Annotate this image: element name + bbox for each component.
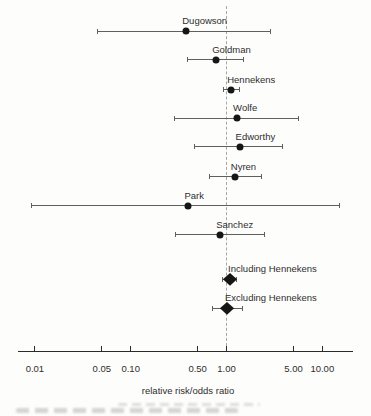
cropped-caption-remnant	[118, 403, 260, 406]
x-axis-tick-label: 0.10	[109, 363, 153, 374]
x-axis-tick	[293, 346, 294, 351]
cropped-caption-remnant	[16, 408, 238, 413]
x-axis-tick	[130, 346, 131, 351]
x-axis-tick	[226, 346, 227, 351]
x-axis-title: relative risk/odds ratio	[18, 385, 358, 396]
x-axis-tick	[101, 346, 102, 351]
x-axis-tick	[34, 346, 35, 351]
x-axis-line	[18, 351, 353, 352]
x-axis-tick-label: 10.00	[300, 363, 344, 374]
forest-plot-figure: DugowsonGoldmanHennekensWolfeEdworthyNyr…	[0, 0, 371, 416]
x-axis-tick-label: 1.00	[205, 363, 249, 374]
x-axis-tick	[197, 346, 198, 351]
x-axis-tick-label: 0.01	[13, 363, 57, 374]
x-axis: 0.010.050.100.501.005.0010.00	[0, 0, 371, 416]
x-axis-tick	[322, 346, 323, 351]
